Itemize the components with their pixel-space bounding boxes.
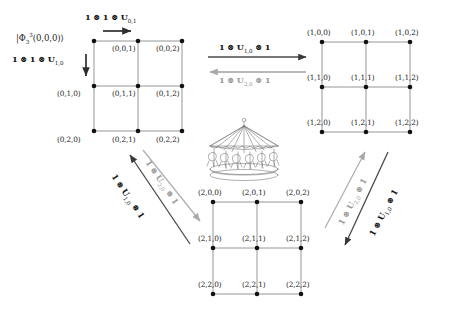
- node-label-001: (0,0,1): [112, 44, 136, 53]
- grid-block-0-lines: [94, 41, 182, 131]
- node-label-022: (0,2,2): [156, 135, 180, 144]
- node-label-211: (2,1,1): [242, 234, 266, 243]
- op-label-left-U10: 1 ⊗ U1,0 ⊗ 1: [110, 172, 147, 220]
- node-label-101: (1,0,1): [351, 28, 375, 37]
- op-label-left-U20: 1 ⊗ U2,0 ⊗ 1: [144, 158, 181, 206]
- node-label-122: (1,2,2): [395, 118, 419, 127]
- node-label-210: (2,1,0): [198, 234, 222, 243]
- op-label-1-U10-1: 1 ⊗ U1,0 ⊗ 1: [219, 42, 270, 52]
- op-label-right-U20: 1 ⊗ U2,0 ⊗ 1: [336, 177, 369, 227]
- initial-state-label: |Φ33(0,0,0)⟩: [16, 33, 64, 43]
- op-label-1-1-U10: 1 ⊗ 1 ⊗ U1,0: [12, 54, 63, 64]
- node-label-012: (0,1,2): [156, 89, 180, 98]
- op-label-right-U10: 1 ⊗ U1,0 ⊗ 1: [367, 188, 400, 238]
- node-label-221: (2,2,1): [242, 280, 266, 289]
- node-label-002: (0,0,2): [156, 44, 180, 53]
- node-label-121: (1,2,1): [351, 118, 375, 127]
- node-label-021: (0,2,1): [112, 135, 136, 144]
- node-label-102: (1,0,2): [395, 28, 419, 37]
- node-label-201: (2,0,1): [242, 188, 266, 197]
- node-label-222: (2,2,2): [286, 280, 310, 289]
- op-label-1-1-U01: 1 ⊗ 1 ⊗ U0,1: [85, 12, 136, 22]
- op-label-1-U20-1: 1 ⊗ U2,0 ⊗ 1: [219, 75, 270, 85]
- node-label-120: (1,2,0): [307, 118, 331, 127]
- node-label-220: (2,2,0): [198, 280, 222, 289]
- node-label-212: (2,1,2): [286, 234, 310, 243]
- node-label-111: (1,1,1): [351, 73, 375, 82]
- node-label-010: (0,1,0): [57, 89, 81, 98]
- node-label-020: (0,2,0): [57, 135, 81, 144]
- node-label-112: (1,1,2): [395, 73, 419, 82]
- figure-canvas: |Φ33(0,0,0)⟩ 1 ⊗ 1 ⊗ U0,1 1 ⊗ 1 ⊗ U1,0 1…: [0, 0, 463, 312]
- node-label-100: (1,0,0): [307, 28, 331, 37]
- node-label-200: (2,0,0): [198, 188, 222, 197]
- arrow-left-up-diagonal: [130, 155, 190, 244]
- carousel-illustration: [207, 118, 279, 180]
- node-label-202: (2,0,2): [286, 188, 310, 197]
- node-label-110: (1,1,0): [307, 73, 331, 82]
- node-label-011: (0,1,1): [112, 89, 136, 98]
